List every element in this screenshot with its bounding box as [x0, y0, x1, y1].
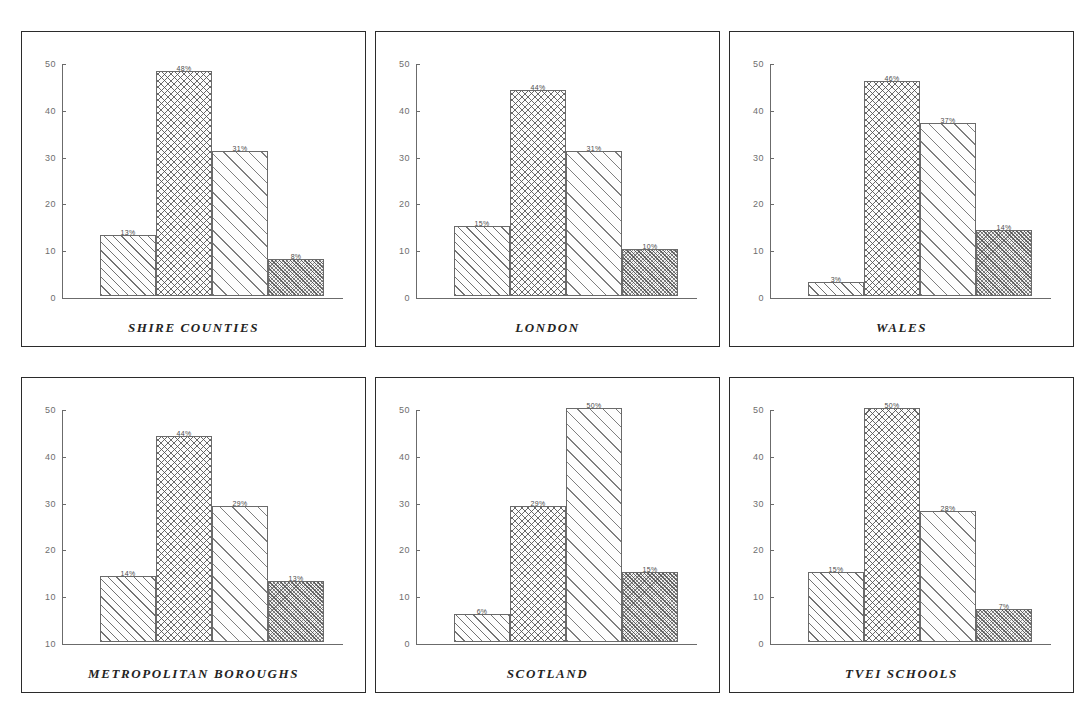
y-axis-tick-label: 20 — [736, 545, 764, 555]
x-axis-line — [62, 644, 343, 645]
y-axis-tick-label: 50 — [736, 405, 764, 415]
bar-value-label: 48% — [177, 65, 192, 72]
bar-value-label: 7% — [999, 603, 1010, 610]
chart-grid: 0102030405013%48%31%8%SHIRE COUNTIES0102… — [0, 0, 1074, 721]
y-axis-tick-label: 40 — [736, 452, 764, 462]
y-axis-tick-label: 10 — [28, 246, 56, 256]
bar — [454, 226, 510, 296]
y-axis-tick-label: 10 — [736, 592, 764, 602]
plot-area: 010203040503%46%37%14% — [730, 32, 1073, 346]
bar-value-label: 6% — [477, 608, 488, 615]
y-axis-tick-label: 30 — [28, 153, 56, 163]
bar — [212, 506, 268, 642]
plot-area: 010203040506%29%50%15% — [376, 378, 719, 692]
bar-value-label: 13% — [289, 575, 304, 582]
x-axis-line — [770, 298, 1051, 299]
bar-value-label: 15% — [829, 566, 844, 573]
plot-area: 0102030405013%48%31%8% — [22, 32, 365, 346]
bar — [864, 81, 920, 296]
bar-value-label: 3% — [831, 276, 842, 283]
chart-panel: 010203040506%29%50%15%SCOTLAND — [375, 377, 720, 693]
y-axis-tick — [416, 64, 420, 65]
y-axis-tick-label: 30 — [382, 499, 410, 509]
bar-value-label: 37% — [941, 117, 956, 124]
x-axis-line — [770, 644, 1051, 645]
bar-value-label: 14% — [121, 570, 136, 577]
bar — [566, 408, 622, 642]
y-axis-tick — [770, 644, 774, 645]
bar — [156, 71, 212, 296]
bar-value-label: 50% — [587, 402, 602, 409]
y-axis-tick — [770, 457, 774, 458]
y-axis-line — [62, 64, 63, 298]
y-axis-tick — [62, 111, 66, 112]
y-axis-tick — [416, 504, 420, 505]
y-axis-tick-label: 0 — [382, 639, 410, 649]
chart-panel: 010203040503%46%37%14%WALES — [729, 31, 1074, 347]
bar-value-label: 8% — [291, 253, 302, 260]
y-axis-tick — [770, 504, 774, 505]
y-axis-tick-label: 40 — [736, 106, 764, 116]
panel-title: METROPOLITAN BOROUGHS — [22, 666, 365, 682]
bar — [156, 436, 212, 642]
y-axis-tick-label: 50 — [28, 405, 56, 415]
y-axis-tick — [770, 597, 774, 598]
bar — [566, 151, 622, 296]
y-axis-tick — [416, 644, 420, 645]
y-axis-line — [62, 410, 63, 644]
bar — [268, 581, 324, 642]
y-axis-tick — [62, 597, 66, 598]
bar-value-label: 15% — [643, 566, 658, 573]
y-axis-tick-label: 50 — [736, 59, 764, 69]
y-axis-tick — [770, 111, 774, 112]
bar — [808, 282, 864, 296]
panel-title: TVEI SCHOOLS — [730, 666, 1073, 682]
y-axis-tick-label: 10 — [382, 246, 410, 256]
y-axis-tick — [770, 410, 774, 411]
chart-panel: 0102030405013%48%31%8%SHIRE COUNTIES — [21, 31, 366, 347]
bar-value-label: 44% — [531, 84, 546, 91]
chart-panel: 0102030405015%50%28%7%TVEI SCHOOLS — [729, 377, 1074, 693]
y-axis-tick-label: 20 — [28, 199, 56, 209]
y-axis-tick-label: 30 — [736, 499, 764, 509]
x-axis-line — [62, 298, 343, 299]
y-axis-tick-label: 10 — [28, 639, 56, 649]
bar-value-label: 15% — [475, 220, 490, 227]
bar-value-label: 14% — [997, 224, 1012, 231]
x-axis-line — [416, 644, 697, 645]
y-axis-tick — [62, 204, 66, 205]
y-axis-tick — [62, 64, 66, 65]
panel-title: LONDON — [376, 320, 719, 336]
bar — [808, 572, 864, 642]
y-axis-tick-label: 20 — [382, 545, 410, 555]
y-axis-line — [770, 410, 771, 644]
bar — [454, 614, 510, 642]
plot-area: 0102030405015%50%28%7% — [730, 378, 1073, 692]
y-axis-tick — [416, 298, 420, 299]
bar-value-label: 46% — [885, 75, 900, 82]
y-axis-tick-label: 40 — [382, 106, 410, 116]
x-axis-line — [416, 298, 697, 299]
bar — [268, 259, 324, 296]
y-axis-tick — [62, 410, 66, 411]
bar — [510, 90, 566, 296]
bar — [920, 123, 976, 296]
bar-value-label: 31% — [233, 145, 248, 152]
y-axis-line — [416, 64, 417, 298]
bar — [920, 511, 976, 642]
plot-area: 0102030405015%44%31%10% — [376, 32, 719, 346]
chart-panel: 0102030405015%44%31%10%LONDON — [375, 31, 720, 347]
y-axis-tick — [62, 457, 66, 458]
y-axis-tick-label: 50 — [382, 405, 410, 415]
bar — [100, 576, 156, 642]
y-axis-tick — [62, 298, 66, 299]
bar — [622, 572, 678, 642]
y-axis-tick-label: 30 — [28, 499, 56, 509]
bar — [976, 230, 1032, 296]
y-axis-tick-label: 0 — [382, 293, 410, 303]
bar — [622, 249, 678, 296]
y-axis-tick — [62, 158, 66, 159]
y-axis-tick — [62, 251, 66, 252]
y-axis-line — [416, 410, 417, 644]
y-axis-tick-label: 10 — [736, 246, 764, 256]
